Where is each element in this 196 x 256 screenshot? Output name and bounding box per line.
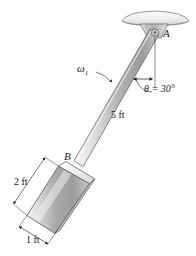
omega-symbol: ω <box>77 62 85 74</box>
dim-2ft-ext-top <box>45 158 59 167</box>
label-angle: θ = 30° <box>144 84 175 94</box>
rod-body <box>74 29 159 167</box>
omega-subscript: 1 <box>85 69 89 77</box>
rod-highlight <box>76 30 152 162</box>
label-block-length: 2 ft <box>14 177 28 187</box>
mechanics-figure: A B ω1 θ = 30° 5 ft 2 ft 1 ft <box>0 0 196 256</box>
dim-1ft-ext-left <box>19 216 27 227</box>
label-point-a: A <box>163 28 170 39</box>
dim-2ft-ext-bottom <box>14 204 28 216</box>
dim-1ft-ext-right <box>48 234 55 245</box>
rod-AB <box>74 29 159 167</box>
omega-annotation <box>96 72 112 82</box>
omega-arrow <box>96 72 112 82</box>
label-block-width: 1 ft <box>26 235 40 245</box>
block-B <box>27 162 95 234</box>
pivot-A <box>151 29 158 36</box>
label-point-b: B <box>64 151 71 162</box>
label-rod-length: 5 ft <box>111 110 125 120</box>
label-angular-velocity: ω1 <box>77 63 88 77</box>
pin-inner <box>154 31 157 34</box>
